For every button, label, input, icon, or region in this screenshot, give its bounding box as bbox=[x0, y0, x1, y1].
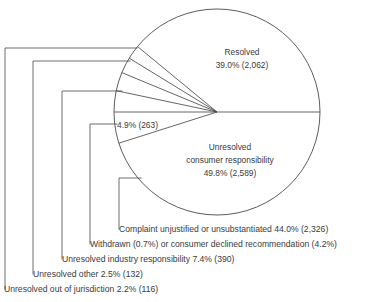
slice-label-resolved-value: 39.0% (2,062) bbox=[216, 60, 269, 70]
callout-label-out-of-jurisdiction: Unresolved out of jurisdiction 2.2% (116… bbox=[4, 284, 158, 294]
slice-label-unresolved-consumer-name-2: consumer responsibility bbox=[186, 155, 274, 165]
slice-label-unresolved-consumer-value: 49.8% (2,589) bbox=[204, 168, 257, 178]
leader-out-of-jurisdiction bbox=[5, 48, 137, 289]
pie-chart-figure: Resolved 39.0% (2,062) Unresolved consum… bbox=[0, 0, 382, 302]
slice-label-unresolved-consumer-name-1: Unresolved bbox=[209, 142, 252, 152]
callout-label-complaint-unjustified: Complaint unjustified or unsubstantiated… bbox=[119, 224, 328, 234]
callout-label-withdrawn-declined: Withdrawn (0.7%) or consumer declined re… bbox=[90, 239, 337, 249]
slice-label-withdrawn-declined-value: 4.9% (263) bbox=[117, 120, 158, 130]
leader-complaint-unjustified bbox=[119, 178, 141, 229]
spoke-out-of-jurisdiction bbox=[129, 58, 217, 112]
spoke-industry-responsibility bbox=[116, 91, 217, 112]
spoke-resolved-boundary bbox=[138, 47, 217, 112]
pie-chart-canvas: Resolved 39.0% (2,062) Unresolved consum… bbox=[0, 0, 382, 302]
spoke-unresolved-other bbox=[122, 73, 217, 112]
leader-industry-responsibility bbox=[62, 91, 122, 259]
slice-label-resolved-name: Resolved bbox=[225, 47, 260, 57]
leader-withdrawn-declined bbox=[90, 124, 117, 244]
callout-label-unresolved-other: Unresolved other 2.5% (132) bbox=[33, 269, 143, 279]
callout-label-industry-responsibility: Unresolved industry responsibility 7.4% … bbox=[62, 254, 235, 264]
